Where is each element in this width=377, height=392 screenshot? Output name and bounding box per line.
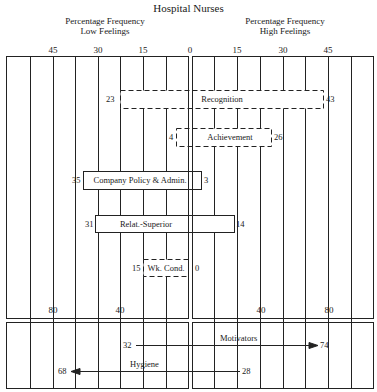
tick-lower-right-40: 40 bbox=[257, 305, 266, 315]
tick-lower-right-80: 80 bbox=[325, 305, 334, 315]
bar-low-value-achievement: 4 bbox=[169, 132, 173, 142]
tick-lower-left-40: 40 bbox=[116, 305, 125, 315]
bar-low-value-company-policy: 35 bbox=[72, 175, 81, 185]
bar-high-value-company-policy: 3 bbox=[204, 175, 208, 185]
bar-low-value-recognition: 23 bbox=[106, 94, 115, 104]
bar-high-value-recognition: 43 bbox=[326, 94, 335, 104]
bar-label-company-policy: Company Policy & Admin. bbox=[93, 175, 186, 185]
hygiene-low-value: 68 bbox=[58, 366, 67, 376]
motivators-high-value: 74 bbox=[320, 340, 329, 350]
bar-high-value-wk-cond: 0 bbox=[195, 263, 199, 273]
bar-high-value-achievement: 26 bbox=[274, 132, 283, 142]
bar-low-value-relat-superior: 31 bbox=[85, 219, 94, 229]
bar-label-recognition: Recognition bbox=[201, 94, 243, 104]
bar-label-relat-superior: Relat.-Superior bbox=[120, 219, 172, 229]
chart-grid bbox=[0, 0, 377, 392]
bar-low-value-wk-cond: 15 bbox=[132, 263, 141, 273]
motivators-arrowhead bbox=[309, 343, 318, 349]
motivators-low-value: 32 bbox=[123, 340, 132, 350]
tick-lower-left-80: 80 bbox=[49, 305, 58, 315]
motivators-label: Motivators bbox=[220, 333, 257, 343]
hygiene-high-value: 28 bbox=[242, 366, 251, 376]
hygiene-label: Hygiene bbox=[130, 359, 159, 369]
bar-high-value-relat-superior: 14 bbox=[236, 219, 245, 229]
bar-label-wk-cond: Wk. Cond. bbox=[147, 263, 184, 273]
bar-label-achievement: Achievement bbox=[207, 132, 252, 142]
